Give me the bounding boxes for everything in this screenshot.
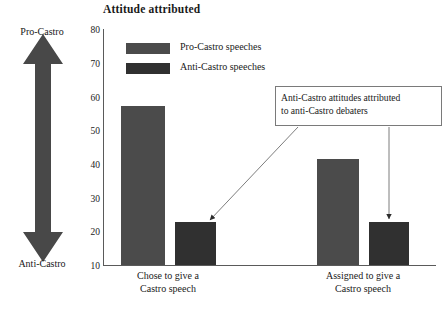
category-label-chose: Chose to give a Castro speech	[103, 270, 233, 295]
category-label-chose-line2: Castro speech	[140, 283, 196, 294]
category-label-assigned-line2: Castro speech	[335, 283, 391, 294]
annotation-leader-lines	[0, 0, 445, 309]
category-label-chose-line1: Chose to give a	[137, 270, 199, 281]
plot-area: Attitude attributed 80 70 60 50 40 30 20…	[0, 0, 445, 309]
category-label-assigned-line1: Assigned to give a	[326, 270, 400, 281]
figure-container: Pro-Castro Anti-Castro Attitude attribut…	[0, 0, 445, 309]
figure-caption	[3, 299, 303, 308]
category-label-assigned: Assigned to give a Castro speech	[298, 270, 428, 295]
